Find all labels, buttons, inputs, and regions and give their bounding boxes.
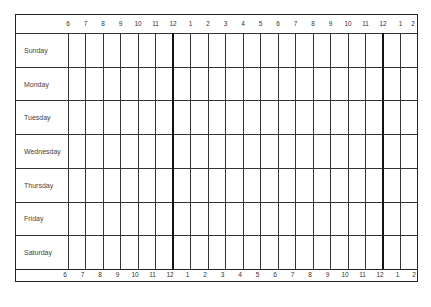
schedule-cell[interactable] xyxy=(173,67,191,101)
schedule-cell[interactable] xyxy=(86,168,104,202)
schedule-cell[interactable] xyxy=(348,134,366,168)
schedule-cell[interactable] xyxy=(331,134,349,168)
schedule-cell[interactable] xyxy=(401,168,419,202)
schedule-cell[interactable] xyxy=(208,202,226,236)
schedule-cell[interactable] xyxy=(313,100,331,134)
schedule-cell[interactable] xyxy=(191,202,209,236)
schedule-cell[interactable] xyxy=(86,235,104,269)
schedule-cell[interactable] xyxy=(261,168,279,202)
schedule-cell[interactable] xyxy=(296,134,314,168)
schedule-cell[interactable] xyxy=(383,100,401,134)
schedule-cell[interactable] xyxy=(68,235,86,269)
schedule-cell[interactable] xyxy=(208,67,226,101)
schedule-cell[interactable] xyxy=(313,235,331,269)
schedule-cell[interactable] xyxy=(401,202,419,236)
schedule-cell[interactable] xyxy=(173,33,191,67)
schedule-cell[interactable] xyxy=(296,168,314,202)
schedule-cell[interactable] xyxy=(243,67,261,101)
schedule-cell[interactable] xyxy=(261,100,279,134)
schedule-cell[interactable] xyxy=(383,235,401,269)
schedule-cell[interactable] xyxy=(331,168,349,202)
schedule-cell[interactable] xyxy=(383,33,401,67)
schedule-cell[interactable] xyxy=(296,67,314,101)
schedule-cell[interactable] xyxy=(68,168,86,202)
schedule-cell[interactable] xyxy=(331,100,349,134)
schedule-cell[interactable] xyxy=(348,100,366,134)
schedule-cell[interactable] xyxy=(173,202,191,236)
schedule-cell[interactable] xyxy=(278,67,296,101)
schedule-cell[interactable] xyxy=(401,235,419,269)
schedule-cell[interactable] xyxy=(156,235,174,269)
schedule-cell[interactable] xyxy=(138,134,156,168)
schedule-cell[interactable] xyxy=(331,33,349,67)
schedule-cell[interactable] xyxy=(401,33,419,67)
schedule-cell[interactable] xyxy=(103,100,121,134)
schedule-cell[interactable] xyxy=(103,67,121,101)
schedule-cell[interactable] xyxy=(173,100,191,134)
schedule-cell[interactable] xyxy=(313,67,331,101)
schedule-cell[interactable] xyxy=(208,235,226,269)
schedule-cell[interactable] xyxy=(156,168,174,202)
schedule-cell[interactable] xyxy=(278,202,296,236)
schedule-cell[interactable] xyxy=(366,202,384,236)
schedule-cell[interactable] xyxy=(226,33,244,67)
schedule-cell[interactable] xyxy=(331,67,349,101)
schedule-cell[interactable] xyxy=(278,33,296,67)
schedule-cell[interactable] xyxy=(348,235,366,269)
schedule-cell[interactable] xyxy=(208,134,226,168)
schedule-cell[interactable] xyxy=(138,235,156,269)
schedule-cell[interactable] xyxy=(68,202,86,236)
schedule-cell[interactable] xyxy=(278,134,296,168)
schedule-cell[interactable] xyxy=(191,33,209,67)
schedule-cell[interactable] xyxy=(313,202,331,236)
schedule-cell[interactable] xyxy=(138,168,156,202)
schedule-cell[interactable] xyxy=(296,33,314,67)
schedule-cell[interactable] xyxy=(138,33,156,67)
schedule-cell[interactable] xyxy=(103,33,121,67)
schedule-cell[interactable] xyxy=(331,202,349,236)
schedule-cell[interactable] xyxy=(121,100,139,134)
schedule-cell[interactable] xyxy=(366,33,384,67)
schedule-cell[interactable] xyxy=(401,67,419,101)
schedule-cell[interactable] xyxy=(313,33,331,67)
schedule-cell[interactable] xyxy=(278,235,296,269)
schedule-cell[interactable] xyxy=(86,202,104,236)
schedule-cell[interactable] xyxy=(68,134,86,168)
schedule-cell[interactable] xyxy=(348,67,366,101)
schedule-cell[interactable] xyxy=(296,235,314,269)
schedule-cell[interactable] xyxy=(68,100,86,134)
schedule-cell[interactable] xyxy=(348,202,366,236)
schedule-cell[interactable] xyxy=(243,134,261,168)
schedule-cell[interactable] xyxy=(278,168,296,202)
schedule-cell[interactable] xyxy=(261,134,279,168)
schedule-cell[interactable] xyxy=(103,235,121,269)
schedule-cell[interactable] xyxy=(366,100,384,134)
schedule-cell[interactable] xyxy=(173,168,191,202)
schedule-cell[interactable] xyxy=(366,235,384,269)
schedule-cell[interactable] xyxy=(156,100,174,134)
schedule-cell[interactable] xyxy=(348,33,366,67)
schedule-cell[interactable] xyxy=(278,100,296,134)
schedule-cell[interactable] xyxy=(331,235,349,269)
schedule-cell[interactable] xyxy=(68,67,86,101)
schedule-cell[interactable] xyxy=(156,134,174,168)
schedule-cell[interactable] xyxy=(156,202,174,236)
schedule-cell[interactable] xyxy=(261,202,279,236)
schedule-cell[interactable] xyxy=(156,67,174,101)
schedule-cell[interactable] xyxy=(366,168,384,202)
schedule-cell[interactable] xyxy=(121,168,139,202)
schedule-cell[interactable] xyxy=(138,202,156,236)
schedule-cell[interactable] xyxy=(243,168,261,202)
schedule-cell[interactable] xyxy=(103,134,121,168)
schedule-cell[interactable] xyxy=(226,235,244,269)
schedule-cell[interactable] xyxy=(191,100,209,134)
schedule-cell[interactable] xyxy=(366,134,384,168)
schedule-cell[interactable] xyxy=(366,67,384,101)
schedule-cell[interactable] xyxy=(191,134,209,168)
schedule-cell[interactable] xyxy=(383,168,401,202)
schedule-cell[interactable] xyxy=(208,33,226,67)
schedule-cell[interactable] xyxy=(313,168,331,202)
schedule-cell[interactable] xyxy=(121,202,139,236)
schedule-cell[interactable] xyxy=(383,134,401,168)
schedule-cell[interactable] xyxy=(121,33,139,67)
